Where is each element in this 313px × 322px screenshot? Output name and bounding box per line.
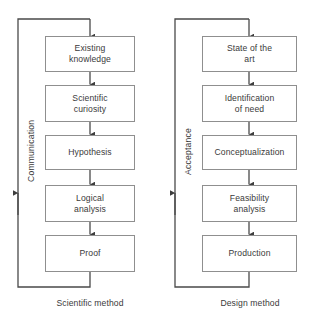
node-identification-of-need[interactable]: Identification of need — [202, 85, 297, 122]
caption-scientific-method: Scientific method — [30, 298, 150, 308]
node-feasibility-analysis[interactable]: Feasibility analysis — [202, 185, 297, 222]
node-production[interactable]: Production — [202, 235, 297, 272]
node-logical-analysis[interactable]: Logical analysis — [45, 185, 135, 222]
node-hypothesis[interactable]: Hypothesis — [45, 135, 135, 170]
flowchart-diagram: Existing knowledge Scientific curiosity … — [0, 0, 313, 322]
node-proof[interactable]: Proof — [45, 235, 135, 272]
caption-design-method: Design method — [190, 298, 310, 308]
node-scientific-curiosity[interactable]: Scientific curiosity — [45, 85, 135, 122]
node-existing-knowledge[interactable]: Existing knowledge — [45, 36, 135, 72]
node-conceptualization[interactable]: Conceptualization — [202, 135, 297, 170]
loop-label-communication: Communication — [26, 120, 36, 182]
loop-label-acceptance: Acceptance — [183, 128, 193, 175]
node-state-of-the-art[interactable]: State of the art — [202, 36, 297, 72]
